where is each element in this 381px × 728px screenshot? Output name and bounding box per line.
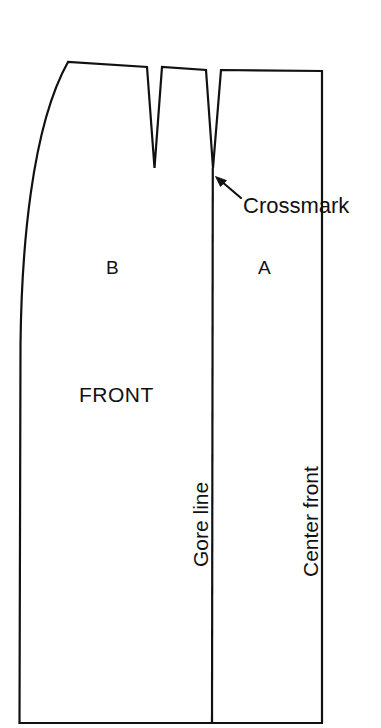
front-label: FRONT — [79, 384, 154, 405]
gore-line — [212, 168, 213, 723]
garment-outline-path — [20, 62, 323, 723]
center-front-label: Center front — [300, 466, 321, 577]
panel-b-label: B — [106, 258, 119, 277]
panel-a-label: A — [258, 258, 271, 277]
crossmark-label: Crossmark — [243, 195, 349, 217]
pattern-outline-svg — [0, 0, 381, 728]
gore-line-label: Gore line — [190, 482, 211, 567]
pattern-diagram-canvas: Crossmark A B FRONT Gore line Center fro… — [0, 0, 381, 728]
